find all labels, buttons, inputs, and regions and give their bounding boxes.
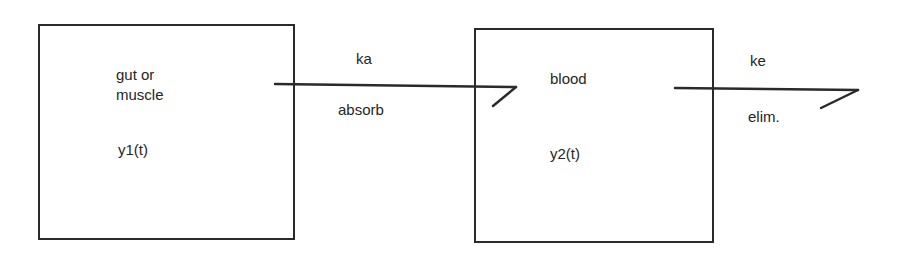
elim-description: elim. bbox=[748, 108, 780, 126]
elim-rate-label: ke bbox=[750, 52, 766, 70]
elim-arrow-head bbox=[821, 90, 858, 108]
compartment-blood bbox=[474, 28, 714, 243]
compartment1-variable: y1(t) bbox=[118, 141, 148, 159]
absorb-description: absorb bbox=[338, 101, 384, 119]
compartment2-variable: y2(t) bbox=[550, 145, 580, 163]
compartment2-label: blood bbox=[550, 70, 587, 88]
compartment-gut-muscle bbox=[38, 24, 295, 240]
compartment1-label-line2: muscle bbox=[116, 86, 164, 104]
compartment1-label-line1: gut or bbox=[116, 66, 154, 84]
absorb-rate-label: ka bbox=[356, 50, 372, 68]
